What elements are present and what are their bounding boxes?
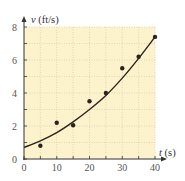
data-point [87,99,91,103]
data-point [120,66,124,70]
y-tick-label: 4 [12,88,17,99]
data-point [104,91,108,95]
x-tick-label: 30 [117,162,127,173]
y-tick-label: 0 [12,154,17,165]
velocity-time-chart: 01020304002468 v (ft/s) t (s) [0,0,185,181]
data-point [38,144,42,148]
x-tick-label: 20 [85,162,95,173]
y-axis-arrow-icon [22,16,27,22]
x-tick-label: 10 [52,162,62,173]
x-tick-label: 0 [22,162,27,173]
y-tick-label: 2 [12,121,17,132]
data-point [71,123,75,127]
y-tick-label: 6 [12,55,17,66]
data-point [153,35,157,39]
data-point [55,121,59,125]
data-point [136,55,140,59]
x-tick-label: 40 [150,162,160,173]
x-axis-label: t (s) [159,147,176,159]
y-axis-label: v (ft/s) [31,14,59,26]
y-tick-label: 8 [12,22,17,33]
